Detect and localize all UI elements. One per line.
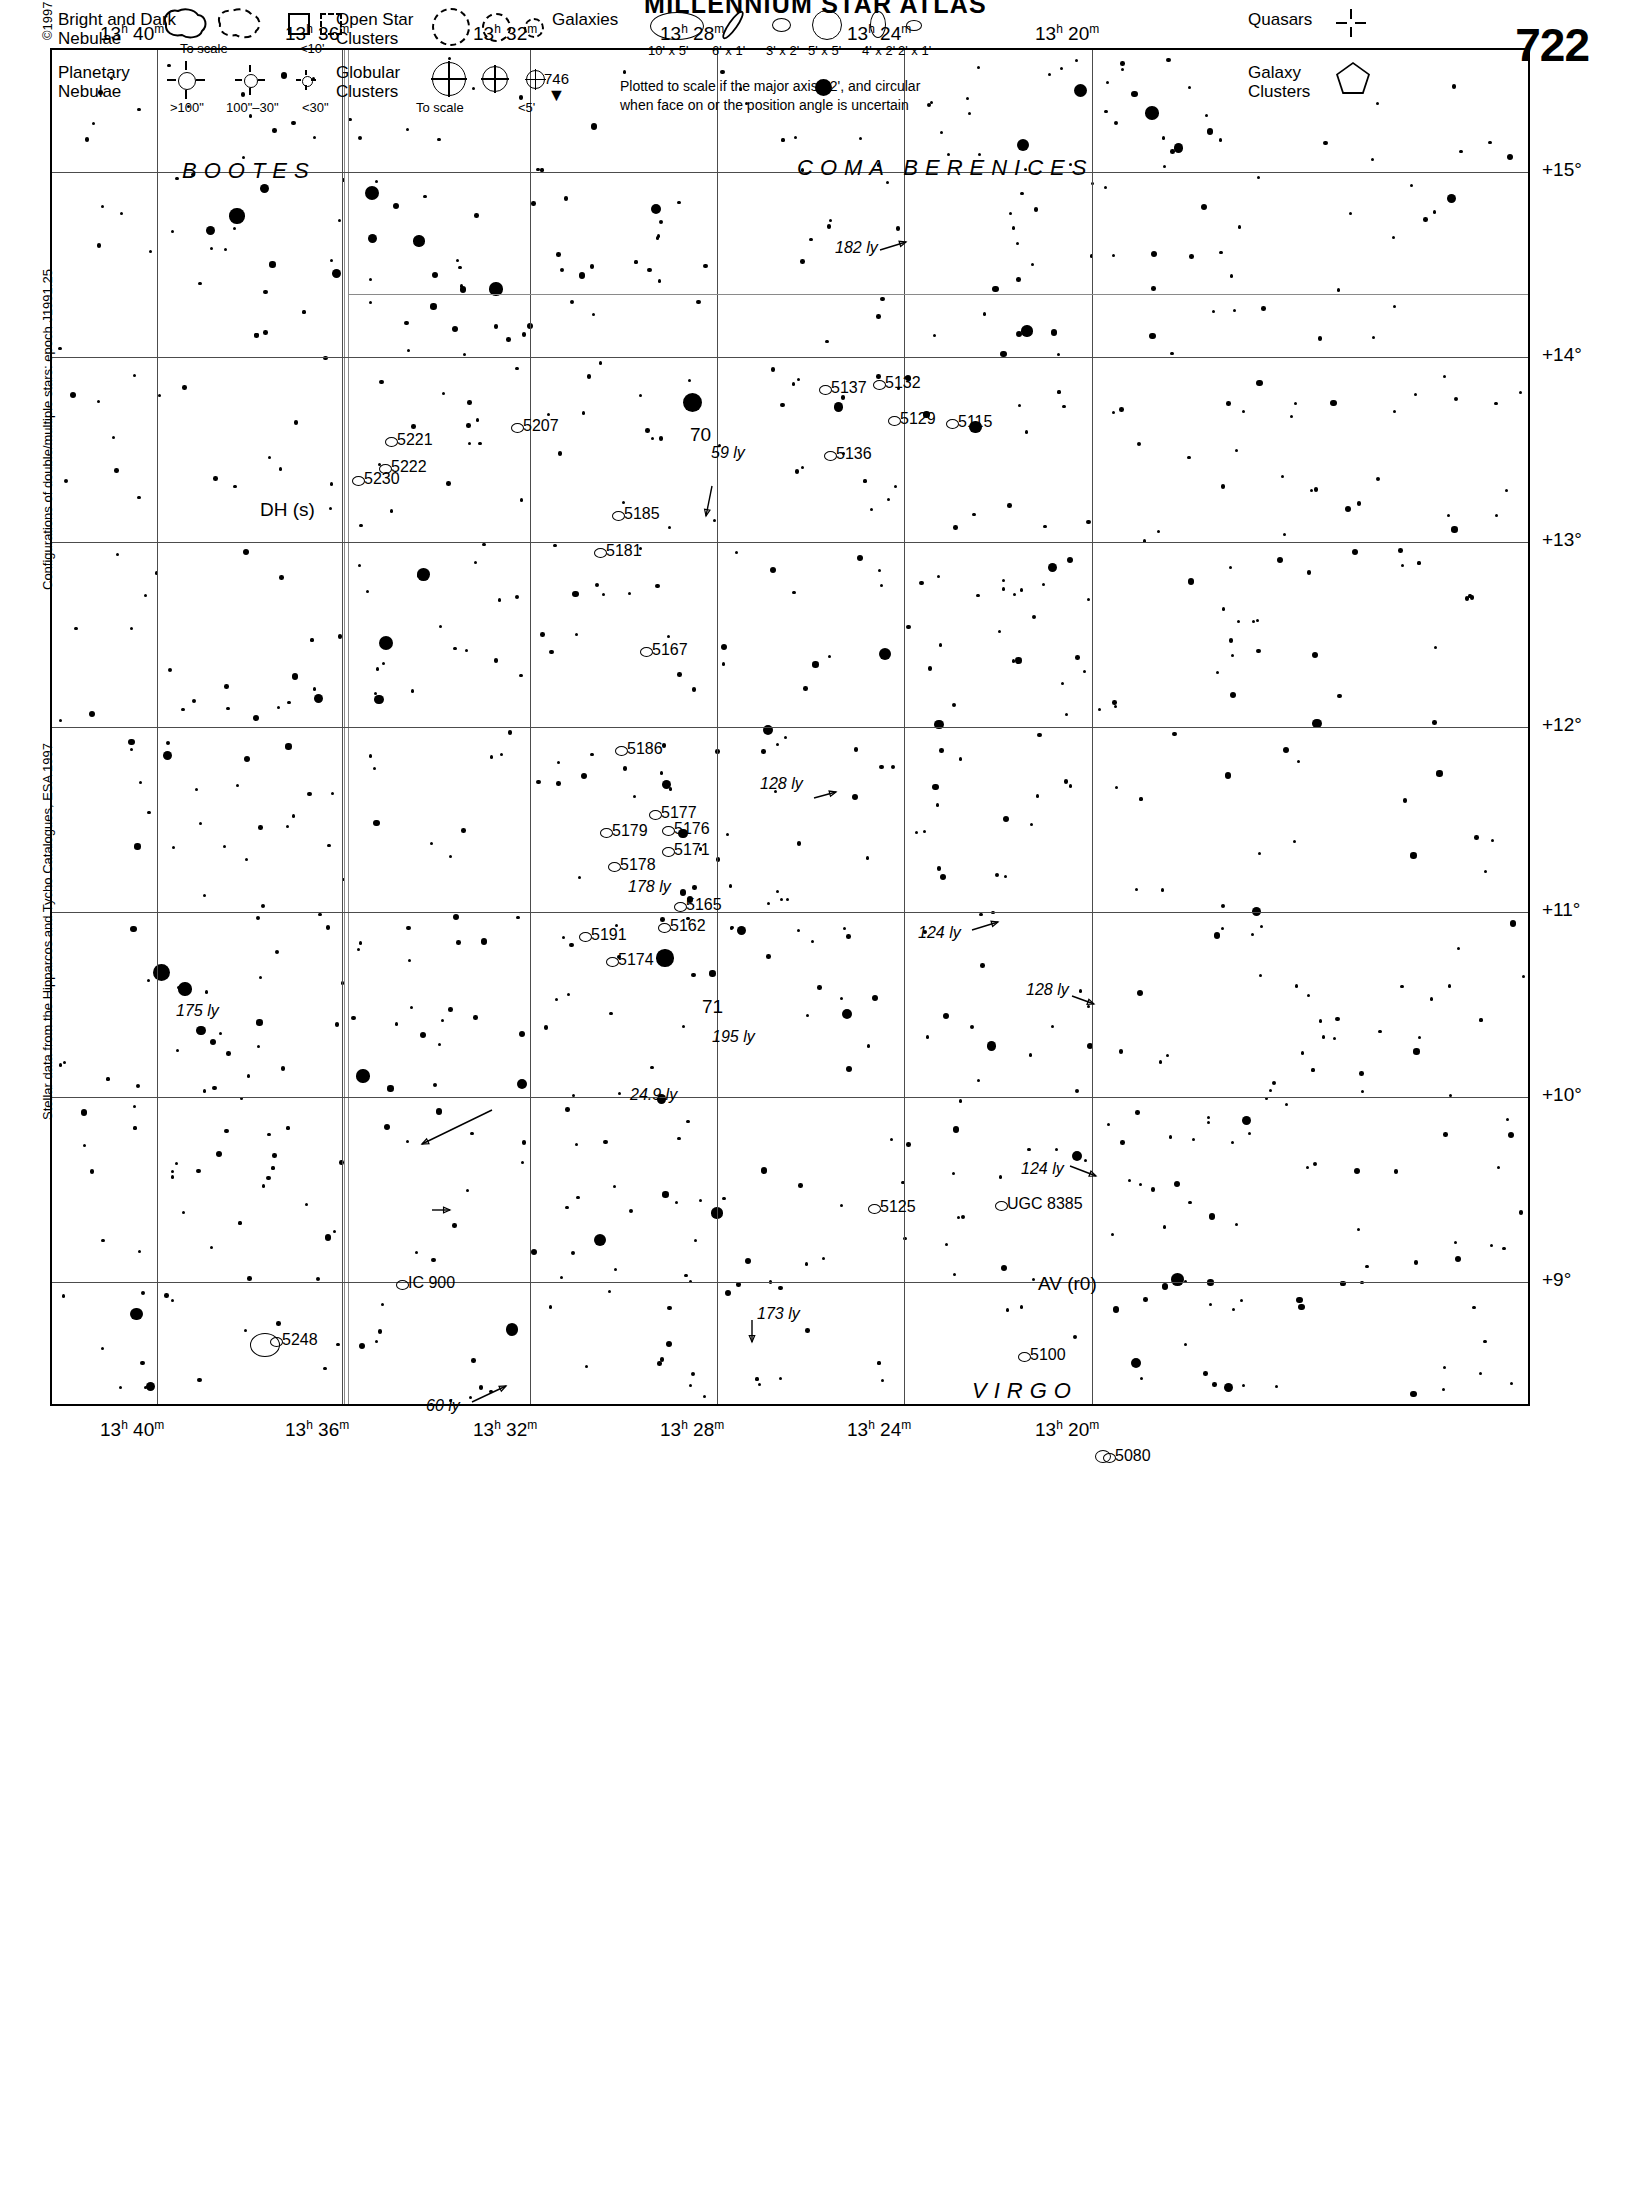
star xyxy=(1269,1089,1272,1092)
star xyxy=(1029,1053,1032,1056)
star xyxy=(500,753,503,756)
star xyxy=(1510,1382,1513,1385)
star xyxy=(254,333,259,338)
star xyxy=(957,1216,960,1219)
star xyxy=(415,1251,418,1254)
star xyxy=(1212,310,1215,313)
star xyxy=(1048,563,1057,572)
object-label-UGC-8385: UGC 8385 xyxy=(1007,1196,1083,1212)
star xyxy=(1163,1225,1166,1228)
star xyxy=(1163,165,1166,168)
star xyxy=(666,1341,672,1347)
star xyxy=(144,594,147,597)
star xyxy=(926,1035,929,1038)
star xyxy=(335,1022,340,1027)
star xyxy=(540,632,545,637)
star xyxy=(1372,336,1375,339)
star xyxy=(780,403,785,408)
legend-planetary-label-1: Planetary xyxy=(58,63,130,82)
star xyxy=(351,1016,356,1021)
galaxy-6x1-icon xyxy=(716,8,750,42)
star xyxy=(1084,1159,1087,1162)
star xyxy=(1036,794,1039,797)
star xyxy=(1319,1019,1322,1022)
star xyxy=(1025,430,1028,433)
star xyxy=(972,513,975,516)
star xyxy=(432,272,438,278)
star xyxy=(562,936,565,939)
star xyxy=(691,973,696,978)
star xyxy=(1256,380,1262,386)
star xyxy=(411,689,414,692)
star xyxy=(359,1343,365,1349)
star xyxy=(1135,1110,1140,1115)
object-label-5221: 5221 xyxy=(397,432,433,448)
star xyxy=(1007,503,1012,508)
star xyxy=(1069,784,1072,787)
star xyxy=(575,1143,578,1146)
star xyxy=(224,248,227,251)
star xyxy=(1410,852,1416,858)
star xyxy=(854,747,859,752)
star xyxy=(1479,1018,1482,1021)
star xyxy=(1104,186,1107,189)
page-number: 722 xyxy=(1515,18,1589,72)
star xyxy=(120,212,123,215)
star xyxy=(809,238,812,241)
star xyxy=(149,250,152,253)
star xyxy=(1027,1148,1030,1151)
star xyxy=(725,1290,731,1296)
star xyxy=(456,940,461,945)
star xyxy=(166,741,171,746)
star xyxy=(840,1204,843,1207)
legend-quasars-label: Quasars xyxy=(1248,10,1312,29)
object-label-5129: 5129 xyxy=(900,411,936,427)
star xyxy=(1201,204,1207,210)
star-label-AV-r0-: AV (r0) xyxy=(1038,1274,1097,1293)
star xyxy=(375,180,378,183)
star xyxy=(1256,649,1261,654)
adjacent-page-marker[interactable]: 746 ▼ xyxy=(544,70,569,104)
star xyxy=(699,1199,702,1202)
star xyxy=(520,498,523,501)
star-chart[interactable]: 5221522252305207513751325129511551365185… xyxy=(50,48,1530,1406)
star xyxy=(1032,1278,1035,1281)
star xyxy=(307,792,312,797)
star xyxy=(730,926,733,929)
dec-label-1: +14° xyxy=(1542,344,1582,366)
ra-label-bottom-0: 13h 40m xyxy=(100,1418,164,1441)
star xyxy=(952,1172,955,1175)
star xyxy=(1257,176,1260,179)
star xyxy=(375,1340,378,1343)
star xyxy=(761,1167,767,1173)
star xyxy=(842,1009,853,1020)
star xyxy=(1410,1391,1416,1397)
star xyxy=(369,754,372,757)
star xyxy=(1128,1179,1131,1182)
star xyxy=(766,954,771,959)
star xyxy=(302,310,305,313)
star xyxy=(1335,1017,1340,1022)
open-cluster-medium-icon xyxy=(482,13,511,42)
object-label-5137: 5137 xyxy=(831,380,867,396)
star xyxy=(171,1170,174,1173)
dec-gridline-5 xyxy=(52,1097,1528,1098)
star xyxy=(420,1032,426,1038)
star xyxy=(1016,242,1019,245)
star xyxy=(116,553,119,556)
star xyxy=(1230,692,1236,698)
star xyxy=(1212,1382,1217,1387)
star xyxy=(953,525,958,530)
star xyxy=(277,706,280,709)
star xyxy=(1139,1183,1142,1186)
object-label-5230: 5230 xyxy=(364,471,400,487)
star xyxy=(219,1032,222,1035)
star xyxy=(474,213,479,218)
star xyxy=(1174,1181,1180,1187)
star xyxy=(326,925,331,930)
star xyxy=(286,1126,289,1129)
star xyxy=(474,561,477,564)
star xyxy=(423,195,426,198)
star xyxy=(1491,839,1494,842)
galaxy-cluster-icon xyxy=(1336,62,1370,94)
